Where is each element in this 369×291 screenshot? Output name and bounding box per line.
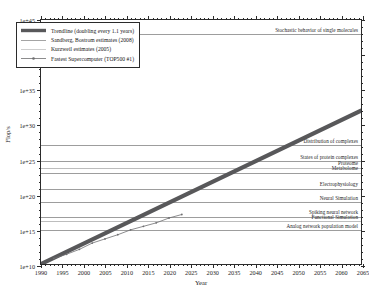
x-axis-tick (41, 264, 42, 268)
y-axis-tick-right (361, 97, 363, 98)
x-axis-tick-label: 2010 (121, 269, 133, 276)
x-axis-tick-top (140, 18, 141, 20)
x-axis-tick-top (80, 18, 81, 20)
legend-swatch-icon (20, 26, 47, 35)
data-point-marker (53, 258, 55, 260)
x-axis-tick-top (97, 18, 98, 20)
y-axis-tick-right (361, 76, 363, 77)
y-axis-tick-right (361, 217, 363, 218)
x-axis-tick-top (71, 18, 72, 20)
x-axis-tick-label: 1990 (35, 269, 47, 276)
x-axis-tick (101, 264, 102, 266)
y-axis-tick-right (361, 147, 363, 148)
x-axis-tick (226, 264, 227, 266)
x-axis-tick-top (264, 18, 265, 20)
y-axis-tick (39, 238, 41, 239)
x-axis-tick-top (286, 18, 287, 20)
x-axis-tick (58, 264, 59, 266)
x-axis-tick-top (243, 18, 244, 20)
x-axis-tick-top (75, 18, 76, 20)
y-axis-tick-right (361, 175, 363, 176)
x-axis-tick (346, 264, 347, 266)
y-axis-tick-right (361, 118, 363, 119)
y-axis-tick (39, 118, 41, 119)
x-axis-tick (316, 264, 317, 266)
data-point-marker (143, 225, 145, 227)
x-axis-tick (54, 264, 55, 266)
x-axis-tick-top (316, 18, 317, 20)
x-axis-tick (269, 264, 270, 266)
y-axis-tick (39, 245, 41, 246)
y-axis-tick-label: 1e+15 (19, 227, 35, 234)
y-axis-tick-right (361, 238, 363, 239)
y-axis-tick-right (361, 69, 363, 70)
x-axis-tick-top (135, 18, 136, 20)
x-axis-tick-top (281, 18, 282, 20)
x-axis-tick (131, 264, 132, 266)
y-axis-tick-right (361, 252, 363, 253)
x-axis-tick-top (58, 18, 59, 20)
y-axis-tick (37, 231, 41, 232)
x-axis-tick-top (238, 18, 239, 20)
data-point-marker (168, 217, 170, 219)
x-axis-tick-top (346, 18, 347, 20)
x-axis-tick (294, 264, 295, 266)
x-axis-tick-top (166, 18, 167, 20)
legend-entry: Kurzweil estimates (2005) (20, 45, 134, 54)
x-axis-tick (307, 264, 308, 266)
x-axis-tick (105, 264, 106, 268)
x-axis-tick-top (191, 16, 192, 20)
y-axis-tick-right (361, 104, 363, 105)
x-axis-tick (329, 264, 330, 266)
x-axis-tick (311, 264, 312, 266)
x-axis-tick (187, 264, 188, 266)
x-axis-tick (161, 264, 162, 266)
legend-label: Fastest Supercomputer (TOP500 #1) (51, 56, 134, 62)
y-axis-tick (37, 90, 41, 91)
x-axis-tick-top (105, 16, 106, 20)
x-axis-tick-top (256, 16, 257, 20)
x-axis-tick (217, 264, 218, 266)
x-axis-tick (97, 264, 98, 266)
x-axis-tick-top (54, 18, 55, 20)
x-axis-tick-top (299, 16, 300, 20)
x-axis-tick (213, 264, 214, 268)
x-axis-tick-top (67, 18, 68, 20)
x-axis-tick (354, 264, 355, 266)
x-axis-tick-top (363, 16, 364, 20)
y-axis-tick-right (361, 90, 365, 91)
y-axis-tick-right (361, 62, 363, 63)
trendline-series (41, 111, 361, 264)
y-axis-tick (39, 139, 41, 140)
x-axis-tick (333, 264, 334, 266)
y-axis-tick-right (361, 231, 365, 232)
x-axis-tick (110, 264, 111, 266)
x-axis-tick (174, 264, 175, 266)
x-axis-tick-top (204, 18, 205, 20)
x-axis-tick-top (208, 18, 209, 20)
y-axis-tick-right (361, 210, 363, 211)
x-axis-tick (277, 264, 278, 268)
x-axis-tick (264, 264, 265, 266)
x-axis-tick-top (174, 18, 175, 20)
x-axis-tick (93, 264, 94, 266)
x-axis-tick (342, 264, 343, 268)
x-axis-tick-label: 2040 (249, 269, 261, 276)
x-axis-tick-top (114, 18, 115, 20)
legend-entry: Trendline (doubling every 1.1 years) (20, 26, 134, 35)
x-axis-tick (299, 264, 300, 268)
x-axis-tick-top (324, 18, 325, 20)
x-axis-tick-top (187, 18, 188, 20)
x-axis-tick-top (123, 18, 124, 20)
y-axis-tick-label: 1e+30 (19, 122, 35, 129)
x-axis-tick (80, 264, 81, 266)
y-axis-tick-right (361, 55, 365, 56)
x-axis-tick-top (213, 16, 214, 20)
y-axis-tick (39, 252, 41, 253)
x-axis-tick (234, 264, 235, 268)
x-axis-tick-top (50, 18, 51, 20)
x-axis-tick-top (251, 18, 252, 20)
x-axis-tick-label: 2035 (228, 269, 240, 276)
y-axis-tick-right (361, 132, 363, 133)
x-axis-tick-top (221, 18, 222, 20)
